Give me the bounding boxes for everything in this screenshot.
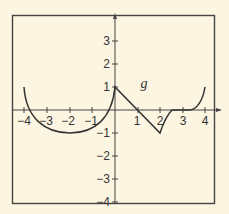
x-axis-arrow-icon — [216, 108, 222, 112]
y-tick-label: −1 — [96, 126, 110, 140]
x-tick-label: 4 — [202, 114, 209, 128]
x-tick-label: 3 — [180, 114, 187, 128]
y-tick-label: 1 — [103, 80, 110, 94]
y-tick-label: −2 — [96, 149, 110, 163]
graph-of-g: −4 −3 −2 −1 1 2 3 4 3 2 1 −1 −2 −3 −4 g — [0, 0, 229, 214]
function-label: g — [141, 76, 148, 91]
x-tick-label: −2 — [61, 114, 75, 128]
x-tick-label: −3 — [39, 114, 53, 128]
y-tick-label: 2 — [103, 57, 110, 71]
y-tick-label: −4 — [96, 195, 110, 209]
y-tick-label: −3 — [96, 172, 110, 186]
y-tick-label: 3 — [103, 34, 110, 48]
x-tick-label: 1 — [134, 114, 141, 128]
x-tick-label: −4 — [17, 114, 31, 128]
